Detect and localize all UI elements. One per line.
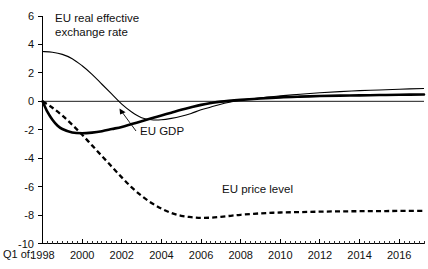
x-tick-label: 2016 bbox=[387, 249, 411, 261]
y-tick-label: 2 bbox=[28, 67, 34, 79]
exchange-rate-label: EU real effectiveexchange rate bbox=[55, 12, 139, 38]
x-tick-label: 2004 bbox=[149, 249, 173, 261]
gdp-leader-line bbox=[122, 112, 136, 131]
y-tick-label: -6 bbox=[24, 181, 34, 193]
gdp-label: EU GDP bbox=[140, 125, 184, 137]
line-chart: 6420-2-4-6-8-10 199820002002200420062008… bbox=[0, 0, 428, 269]
series-eu-real-effective-exchange-rate bbox=[43, 52, 425, 120]
y-tick-label: 0 bbox=[28, 95, 34, 107]
x-tick-label: 1998 bbox=[30, 249, 54, 261]
x-axis-group: 1998200020022004200620082010201220142016 bbox=[30, 239, 424, 261]
price-level-label: EU price level bbox=[222, 183, 293, 195]
x-tick-label: 2002 bbox=[110, 249, 134, 261]
series-eu-gdp bbox=[43, 94, 425, 133]
x-tick-label: 2006 bbox=[189, 249, 213, 261]
y-tick-label: -2 bbox=[24, 124, 34, 136]
chart-container: 6420-2-4-6-8-10 199820002002200420062008… bbox=[0, 0, 428, 269]
y-tick-group: 6420-2-4-6-8-10 bbox=[18, 10, 42, 250]
gdp-leader-arrowhead bbox=[120, 109, 126, 115]
x-tick-label: 2008 bbox=[228, 249, 252, 261]
y-tick-label: 6 bbox=[28, 10, 34, 22]
x-axis-origin-label: Q1 of: bbox=[3, 248, 33, 260]
y-tick-label: 4 bbox=[28, 38, 34, 50]
x-tick-label: 2010 bbox=[268, 249, 292, 261]
x-tick-label: 2012 bbox=[308, 249, 332, 261]
y-tick-label: -4 bbox=[24, 152, 34, 164]
x-tick-label: 2000 bbox=[70, 249, 94, 261]
annotations-group: EU real effectiveexchange rateEU GDPEU p… bbox=[55, 12, 293, 195]
x-tick-label: 2014 bbox=[347, 249, 371, 261]
series-eu-price-level bbox=[43, 101, 425, 218]
y-axis-group: 6420-2-4-6-8-10 bbox=[18, 10, 42, 250]
y-tick-label: -8 bbox=[24, 209, 34, 221]
